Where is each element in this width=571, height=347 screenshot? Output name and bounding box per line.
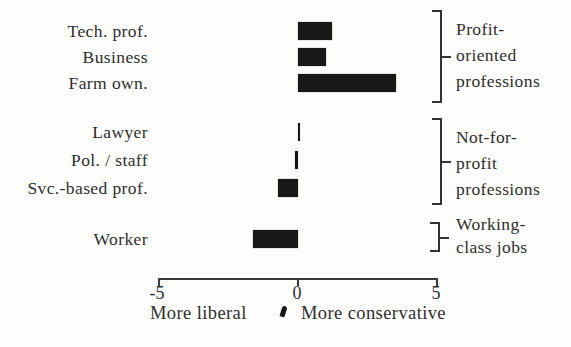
- row-label-pol-staff: Pol. / staff: [71, 150, 148, 171]
- x-tick-label-neg5: -5: [150, 283, 165, 304]
- group-bracket-working-class-jobs-top-stub: [430, 222, 440, 224]
- bar-chart-figure: Tech. prof.BusinessFarm own.LawyerPol. /…: [0, 0, 571, 347]
- group-label-not-for-profit-professions: Not-for-profitprofessions: [456, 124, 540, 202]
- bar-lawyer: [298, 123, 300, 141]
- group-bracket-profit-oriented-professions-bottom-stub: [432, 101, 442, 103]
- row-label-business: Business: [83, 47, 148, 68]
- axis-label-more-conservative: More conservative: [301, 303, 446, 324]
- row-label-svc-based-prof: Svc.-based prof.: [27, 178, 148, 199]
- bar-svc-based-prof: [278, 179, 298, 197]
- group-bracket-not-for-profit-professions-bottom-stub: [432, 203, 442, 205]
- x-tick-label-zero: 0: [293, 283, 302, 304]
- group-label-line: Not-for-: [456, 124, 540, 150]
- axis-label-more-liberal: More liberal: [150, 303, 247, 324]
- group-bracket-profit-oriented-professions-middle-tick: [442, 56, 451, 58]
- bar-farm-own: [298, 74, 396, 92]
- bar-worker: [253, 230, 298, 248]
- group-label-line: oriented: [456, 42, 540, 68]
- bar-business: [298, 48, 326, 66]
- group-bracket-profit-oriented-professions-top-stub: [432, 10, 442, 12]
- x-tick-label-pos5: 5: [432, 283, 441, 304]
- group-label-line: professions: [456, 68, 540, 94]
- group-bracket-not-for-profit-professions-middle-tick: [442, 161, 451, 163]
- group-bracket-working-class-jobs-middle-tick: [440, 237, 449, 239]
- row-label-farm-own: Farm own.: [69, 73, 148, 94]
- group-label-line: Working-: [456, 213, 528, 236]
- group-bracket-working-class-jobs-bottom-stub: [430, 250, 440, 252]
- row-label-tech-prof: Tech. prof.: [68, 21, 148, 42]
- group-label-working-class-jobs: Working-class jobs: [456, 213, 528, 259]
- group-label-line: Profit-: [456, 16, 540, 42]
- bar-tech-prof: [298, 22, 332, 40]
- group-label-profit-oriented-professions: Profit-orientedprofessions: [456, 16, 540, 94]
- scan-artifact-mark: [279, 305, 287, 317]
- group-bracket-not-for-profit-professions-top-stub: [432, 118, 442, 120]
- group-label-line: class jobs: [456, 236, 528, 259]
- row-label-worker: Worker: [94, 229, 148, 250]
- row-label-lawyer: Lawyer: [92, 122, 148, 143]
- group-label-line: profit: [456, 150, 540, 176]
- bar-pol-staff: [295, 151, 298, 169]
- group-label-line: professions: [456, 176, 540, 202]
